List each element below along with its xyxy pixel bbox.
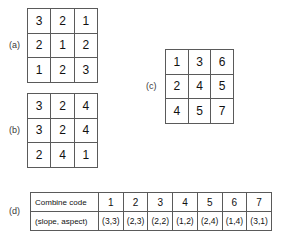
matrix-a-cell-r0c0: 3 <box>28 9 51 34</box>
panel-label-c: (c) <box>146 82 157 91</box>
matrix-b-cell-r0c1: 2 <box>51 94 74 119</box>
matrix-b-cell-r2c2: 1 <box>75 143 98 168</box>
matrix-c-cell-r1c2: 5 <box>211 75 234 100</box>
slope-aspect-7: (3,1) <box>247 212 272 231</box>
slope-aspect-2: (2,3) <box>123 212 148 231</box>
matrix-b-cell-r0c2: 4 <box>75 94 98 119</box>
matrix-c-cell-r0c0: 1 <box>166 50 189 75</box>
combine-code-6: 6 <box>222 193 247 212</box>
matrix-a-cell-r1c1: 1 <box>51 34 74 59</box>
matrix-a-cell-r2c0: 1 <box>28 58 51 83</box>
matrix-a-cell-r0c2: 1 <box>75 9 98 34</box>
slope-aspect-4: (1,2) <box>173 212 198 231</box>
table-row-slope-aspect: (slope, aspect) (3,3) (2,3) (2,2) (1,2) … <box>31 212 272 231</box>
matrix-a-cell-r1c0: 2 <box>28 34 51 59</box>
matrix-b-cell-r1c0: 3 <box>28 119 51 144</box>
matrix-a-cell-r0c1: 2 <box>51 9 74 34</box>
matrix-b: 3 2 4 3 2 4 2 4 1 <box>27 93 98 168</box>
row-header-slope-aspect: (slope, aspect) <box>31 212 99 231</box>
slope-aspect-6: (1,4) <box>222 212 247 231</box>
slope-aspect-3: (2,2) <box>148 212 173 231</box>
combine-code-7: 7 <box>247 193 272 212</box>
matrix-c-cell-r1c1: 4 <box>189 75 212 100</box>
matrix-c-cell-r1c0: 2 <box>166 75 189 100</box>
combine-code-1: 1 <box>99 193 124 212</box>
combine-code-4: 4 <box>173 193 198 212</box>
row-header-combine-code: Combine code <box>31 193 99 212</box>
matrix-a-cell-r1c2: 2 <box>75 34 98 59</box>
matrix-c-cell-r2c2: 7 <box>211 99 234 124</box>
matrix-a-cell-r2c2: 3 <box>75 58 98 83</box>
matrix-b-cell-r1c2: 4 <box>75 119 98 144</box>
matrix-b-cell-r1c1: 2 <box>51 119 74 144</box>
combine-code-2: 2 <box>123 193 148 212</box>
matrix-c-cell-r2c0: 4 <box>166 99 189 124</box>
combine-code-table: Combine code 1 2 3 4 5 6 7 (slope, aspec… <box>30 192 272 231</box>
combine-code-5: 5 <box>197 193 222 212</box>
table-row-combine-code: Combine code 1 2 3 4 5 6 7 <box>31 193 272 212</box>
matrix-a-cell-r2c1: 2 <box>51 58 74 83</box>
matrix-c-cell-r2c1: 5 <box>189 99 212 124</box>
panel-label-d: (d) <box>9 207 20 216</box>
matrix-a: 3 2 1 2 1 2 1 2 3 <box>27 8 98 83</box>
matrix-c: 1 3 6 2 4 5 4 5 7 <box>165 49 234 124</box>
matrix-b-cell-r0c0: 3 <box>28 94 51 119</box>
matrix-c-cell-r0c1: 3 <box>189 50 212 75</box>
matrix-c-cell-r0c2: 6 <box>211 50 234 75</box>
matrix-b-cell-r2c1: 4 <box>51 143 74 168</box>
matrix-b-cell-r2c0: 2 <box>28 143 51 168</box>
panel-label-a: (a) <box>9 41 20 50</box>
combine-code-3: 3 <box>148 193 173 212</box>
panel-label-b: (b) <box>9 126 20 135</box>
slope-aspect-1: (3,3) <box>99 212 124 231</box>
slope-aspect-5: (2,4) <box>197 212 222 231</box>
